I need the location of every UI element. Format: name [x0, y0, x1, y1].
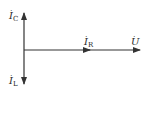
label-ic: ·IC — [9, 11, 18, 21]
label-il: ·IL — [9, 76, 18, 86]
phasor-diagram — [0, 0, 149, 118]
label-ir: ·IR — [84, 37, 93, 47]
label-u: ·U — [131, 37, 139, 47]
